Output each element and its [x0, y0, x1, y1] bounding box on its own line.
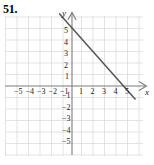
x-tick-label--2: −2	[49, 88, 58, 96]
x-tick-label--3: −3	[37, 88, 46, 96]
exercise-figure: 51.	[0, 0, 154, 165]
y-tick-label-5: 5	[64, 27, 68, 35]
y-tick-label--4: −4	[62, 127, 71, 135]
y-axis-label: y	[62, 9, 66, 18]
y-tick-label-3: 3	[64, 50, 68, 58]
x-tick-label--4: −4	[26, 88, 35, 96]
y-tick-label-4: 4	[64, 39, 68, 47]
x-axis-label: x	[145, 88, 149, 97]
graph-svg	[0, 0, 154, 165]
y-tick-label--1: −1	[62, 92, 71, 100]
x-tick-label-3: 3	[102, 88, 106, 96]
x-tick-label-5: 5	[125, 88, 129, 96]
x-tick-label-1: 1	[79, 88, 83, 96]
y-tick-label--2: −2	[62, 104, 71, 112]
x-tick-label--5: −5	[14, 88, 23, 96]
y-tick-label--5: −5	[62, 138, 71, 146]
x-tick-label-2: 2	[91, 88, 95, 96]
coordinate-plane-chart: −5 −4 −3 −2 −1 1 2 3 4 5 5 4 3 2 1 −1 −2…	[0, 0, 154, 165]
y-tick-label-2: 2	[64, 62, 68, 70]
x-tick-label-4: 4	[114, 88, 118, 96]
y-tick-label-1: 1	[65, 73, 69, 81]
y-tick-label--3: −3	[62, 115, 71, 123]
